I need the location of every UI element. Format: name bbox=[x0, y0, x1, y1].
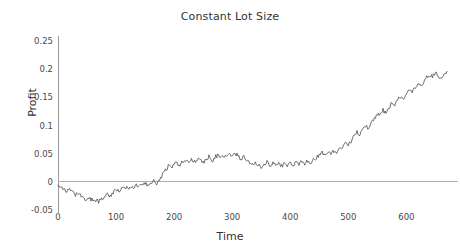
y-tick-label: 0 bbox=[48, 177, 53, 187]
x-tick-labels: 0100200300400500600 bbox=[55, 212, 414, 222]
y-tick-label: 0.2 bbox=[39, 64, 53, 74]
y-tick-label: 0.05 bbox=[34, 149, 53, 159]
x-tick-label: 100 bbox=[108, 212, 124, 222]
profit-series-line bbox=[58, 71, 447, 203]
y-tick-label: 0.1 bbox=[39, 121, 53, 131]
y-tick-label: 0.15 bbox=[34, 92, 53, 102]
plot-area: -0.0500.050.10.150.20.25 010020030040050… bbox=[0, 0, 460, 251]
x-tick-label: 200 bbox=[166, 212, 182, 222]
x-tick-label: 300 bbox=[224, 212, 240, 222]
chart-figure: Constant Lot Size Profit Time -0.0500.05… bbox=[0, 0, 460, 251]
y-tick-labels: -0.0500.050.10.150.20.25 bbox=[31, 36, 53, 215]
y-tick-label: 0.25 bbox=[34, 36, 53, 46]
x-tick-label: 500 bbox=[340, 212, 356, 222]
x-tick-label: 600 bbox=[398, 212, 414, 222]
y-tick-label: -0.05 bbox=[31, 205, 53, 215]
x-tick-label: 400 bbox=[282, 212, 298, 222]
